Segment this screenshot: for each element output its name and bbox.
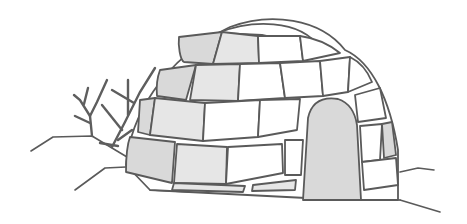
igloo-illustration <box>0 0 467 224</box>
entrance-door <box>303 98 361 200</box>
igloo-drawing <box>0 0 467 224</box>
